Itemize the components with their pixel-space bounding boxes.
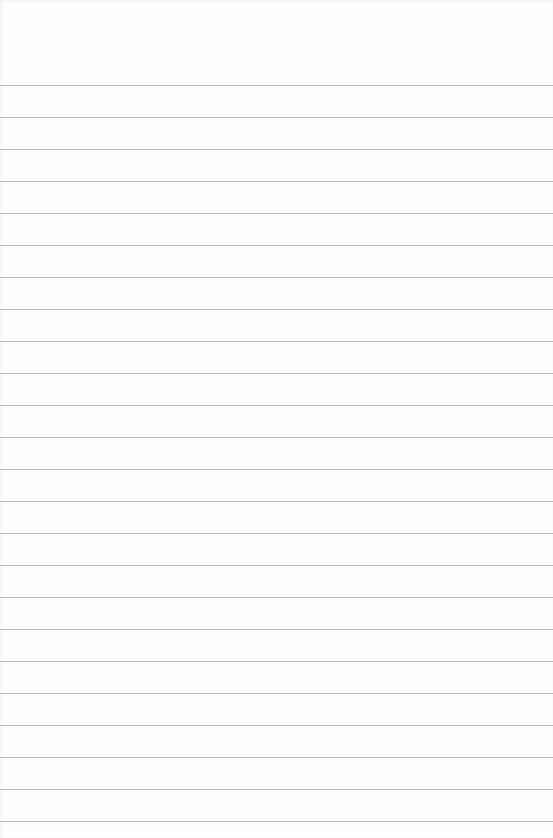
ruled-line [0, 117, 553, 118]
ruled-line [0, 725, 553, 726]
ruled-line [0, 693, 553, 694]
ruled-line [0, 661, 553, 662]
ruled-line [0, 149, 553, 150]
ruled-line [0, 597, 553, 598]
ruled-line [0, 277, 553, 278]
ruled-line [0, 501, 553, 502]
ruled-line [0, 373, 553, 374]
ruled-line [0, 213, 553, 214]
ruled-line [0, 245, 553, 246]
ruled-line [0, 405, 553, 406]
ruled-line [0, 821, 553, 822]
ruled-line [0, 533, 553, 534]
ruled-line [0, 437, 553, 438]
lined-paper [0, 0, 553, 838]
ruled-line [0, 789, 553, 790]
ruled-line [0, 469, 553, 470]
ruled-line [0, 565, 553, 566]
ruled-line [0, 757, 553, 758]
ruled-line [0, 309, 553, 310]
ruled-line [0, 181, 553, 182]
ruled-line [0, 341, 553, 342]
ruled-line [0, 85, 553, 86]
ruled-line [0, 629, 553, 630]
